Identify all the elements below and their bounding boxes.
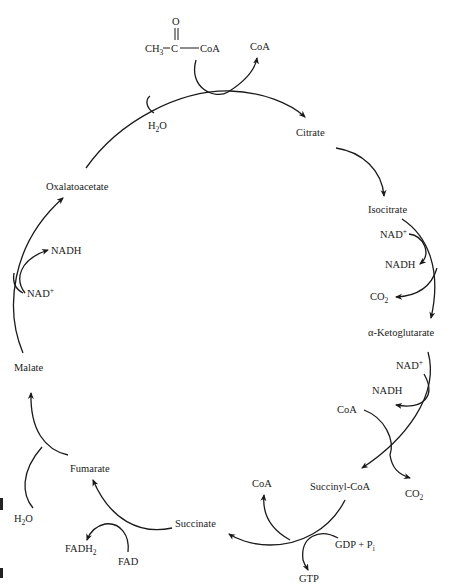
akg-coa-co2-arrow [364,410,410,478]
water-label-top: H2O [148,120,167,134]
gtp-label: GTP [299,573,319,584]
citrate-to-isocitrate-arrow [336,148,384,196]
fumarate-water-arrow [25,447,42,508]
scan-edge-mark [0,498,3,510]
succinyl-coa-label: Succinyl-CoA [310,481,370,492]
akg-co2-label: CO2 [405,488,424,502]
isocitrate-nadh-label: NADH [385,259,416,270]
fad-label: FAD [118,556,139,567]
methyl-group: CH3 [145,43,164,57]
succinate-to-fumarate-arrow [93,480,172,530]
fumarate-to-malate-arrow [31,393,68,455]
isocitrate-nad-label: NAD+ [380,227,407,240]
akg-coa-label: CoA [337,404,357,415]
malate-nadh-label: NADH [51,245,82,256]
gdp-to-gtp-arrow [303,534,338,570]
akg-nadh-label: NADH [372,385,403,396]
acetyl-coa-label: CoA [200,43,220,54]
gdp-pi-label: GDP + Pi [335,539,375,553]
oxaloacetate-label: Oxalatoacetate [46,181,109,192]
sc-coa-arrow [264,495,290,540]
carbonyl-carbon: C [171,43,178,54]
oxaloacetate-to-citrate-arrow [86,91,305,168]
malate-nad-label: NAD+ [27,286,54,299]
succinate-label: Succinate [175,518,216,529]
malate-nadh-arrow [20,250,48,293]
fadh2-label: FADH2 [65,543,97,557]
alpha-ketoglutarate-label: α-Ketoglutarate [368,327,434,338]
coa-released: CoA [250,41,270,52]
isocitrate-label: Isocitrate [368,204,407,215]
water-label-bottom: H2O [14,513,33,527]
acetyl-coa-structure: O CH3 C CoA [145,16,220,57]
citric-acid-cycle-diagram: O CH3 C CoA CoA H2O Citrate Isocitrate N… [0,0,452,584]
malate-label: Malate [14,362,43,373]
scan-edge-mark [0,568,3,578]
isocitrate-co2-label: CO2 [370,291,389,305]
malate-to-oxaloacetate-arrow [14,198,63,353]
akg-nad-label: NAD+ [396,358,423,371]
fumarate-label: Fumarate [70,463,110,474]
sc-coa-label: CoA [252,478,272,489]
acetyl-coa-entry-arrow [195,58,257,94]
carbonyl-oxygen: O [172,16,180,27]
citrate-label: Citrate [296,127,325,138]
isocitrate-co2-arrow [396,268,437,297]
